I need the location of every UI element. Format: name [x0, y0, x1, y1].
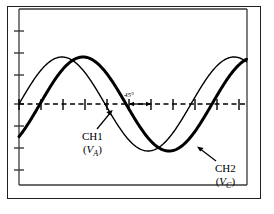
- phase-angle-arrow: [129, 102, 151, 107]
- phase-arrow-head-right: [146, 102, 151, 107]
- ch2-label-line1: CH2: [215, 162, 236, 174]
- ch2-paren-close: ): [231, 175, 235, 187]
- ch1-label-line2: (VA): [82, 144, 103, 159]
- phase-angle-label: 45°: [124, 92, 134, 99]
- phase-arrow-head-left: [129, 102, 134, 107]
- ch1-paren-close: ): [98, 143, 102, 155]
- ch2-label: CH2 (VC): [215, 163, 236, 190]
- waveform-figure: 45° CH1 (VA) CH2 (VC): [0, 0, 274, 214]
- ch1-leader-arrow: [97, 110, 113, 129]
- ch1-leader-line: [97, 112, 111, 129]
- ch2-label-line2: (VC): [215, 176, 236, 191]
- ch2-leader-arrow: [197, 147, 216, 162]
- ch1-label-line1: CH1: [82, 130, 103, 142]
- ch1-label: CH1 (VA): [82, 131, 103, 158]
